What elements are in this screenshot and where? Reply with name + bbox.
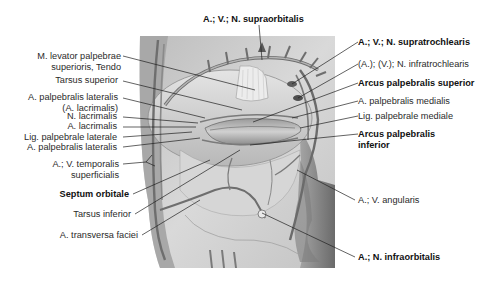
label-levator-palpebrae: M. levator palpebrae superioris, Tendo	[37, 51, 121, 73]
label-line: Arcus palpebralis	[358, 129, 435, 140]
label-temporalis-superficialis: A.; V. temporalis superficialis	[52, 159, 119, 181]
label-line: superficialis	[52, 170, 119, 181]
label-tarsus-inferior: Tarsus inferior	[73, 209, 131, 220]
label-a-palpebralis-medialis: A. palpebralis medialis	[358, 96, 450, 107]
label-tarsus-superior: Tarsus superior	[55, 75, 118, 86]
label-infratrochlearis: (A.); (V.); N. infratrochlearis	[358, 59, 469, 70]
label-supraorbitalis: A.; V.; N. supraorbitalis	[203, 14, 304, 25]
label-line: M. levator palpebrae	[37, 51, 121, 62]
label-infraorbitalis: A.; N. infraorbitalis	[358, 252, 440, 263]
label-line: A. palpebralis lateralis	[28, 92, 118, 103]
label-septum-orbitale: Septum orbitale	[60, 189, 129, 200]
label-arcus-palpebralis-superior: Arcus palpebralis superior	[358, 78, 474, 89]
anatomy-figure: A.; V.; N. supraorbitalis M. levator pal…	[0, 0, 494, 286]
label-lig-palpebrale-mediale: Lig. palpebrale mediale	[358, 111, 453, 122]
label-a-lacrimalis: A. lacrimalis	[67, 121, 117, 132]
label-transversa-faciei: A. transversa faciei	[60, 230, 138, 241]
label-line: A.; V. temporalis	[52, 159, 119, 170]
label-line: inferior	[358, 140, 435, 151]
label-a-palpebralis-lateralis: A. palpebralis lateralis	[27, 142, 117, 153]
label-supratrochlearis: A.; V.; N. supratrochlearis	[358, 37, 470, 48]
label-line: superioris, Tendo	[37, 62, 121, 73]
label-angularis: A.; V. angularis	[358, 195, 419, 206]
label-arcus-palpebralis-inferior: Arcus palpebralis inferior	[358, 129, 435, 151]
